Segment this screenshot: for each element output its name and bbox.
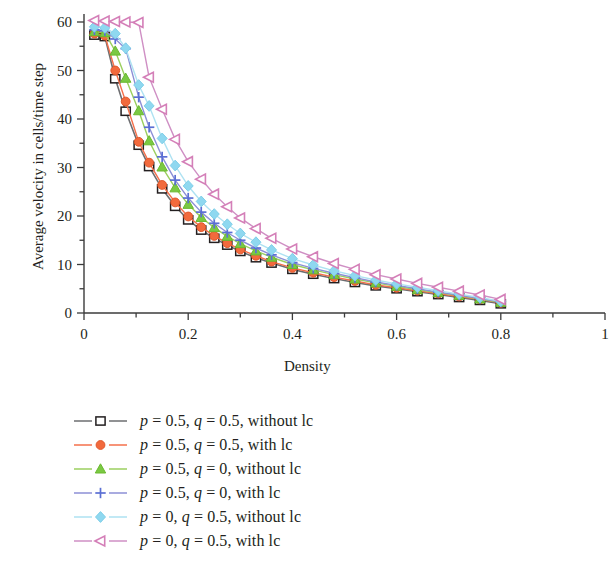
x-tick-label: 0.8 (491, 326, 510, 342)
x-tick-label: 0.4 (283, 326, 302, 342)
y-ticks: 0102030405060 (57, 14, 84, 321)
legend-label: p = 0.5, q = 0, with lc (140, 484, 280, 502)
y-tick-label: 40 (57, 111, 72, 127)
y-tick-label: 60 (57, 14, 72, 30)
y-tick-label: 50 (57, 63, 72, 79)
legend-marker-square-open-icon (72, 411, 130, 431)
x-tick-label: 1 (601, 326, 609, 342)
y-tick-label: 20 (57, 208, 72, 224)
y-axis-label: Average velocity in cells/time step (30, 37, 47, 297)
legend-marker-diamond-filled-icon (72, 507, 130, 527)
y-tick-label: 0 (65, 305, 73, 321)
legend-marker-triangle-filled-icon (72, 459, 130, 479)
x-ticks: 00.20.40.60.81 (80, 313, 609, 342)
legend-marker-plus-icon (72, 483, 130, 503)
legend-marker-circle-filled-icon (72, 435, 130, 455)
legend-label: p = 0, q = 0.5, without lc (140, 508, 301, 526)
legend-label: p = 0.5, q = 0.5, without lc (140, 412, 313, 430)
legend-item[interactable]: p = 0, q = 0.5, with lc (72, 529, 472, 553)
legend-item[interactable]: p = 0.5, q = 0, with lc (72, 481, 472, 505)
legend-label: p = 0.5, q = 0.5, with lc (140, 436, 293, 454)
legend-label: p = 0, q = 0.5, with lc (140, 532, 280, 550)
legend-item[interactable]: p = 0, q = 0.5, without lc (72, 505, 472, 529)
y-tick-label: 30 (57, 160, 72, 176)
chart-figure: 00.20.40.60.810102030405060 Average velo… (0, 0, 612, 565)
legend-item[interactable]: p = 0.5, q = 0.5, with lc (72, 433, 472, 457)
chart-legend: p = 0.5, q = 0.5, without lcp = 0.5, q =… (72, 409, 472, 553)
x-axis-label: Density (284, 358, 331, 375)
x-tick-label: 0.2 (179, 326, 198, 342)
x-tick-label: 0.6 (387, 326, 406, 342)
x-tick-label: 0 (80, 326, 88, 342)
plot-area: 00.20.40.60.810102030405060 (0, 0, 612, 400)
legend-item[interactable]: p = 0.5, q = 0.5, without lc (72, 409, 472, 433)
legend-label: p = 0.5, q = 0, without lc (140, 460, 301, 478)
y-tick-label: 10 (57, 257, 72, 273)
legend-marker-triangle-left-open-icon (72, 531, 130, 551)
legend-item[interactable]: p = 0.5, q = 0, without lc (72, 457, 472, 481)
